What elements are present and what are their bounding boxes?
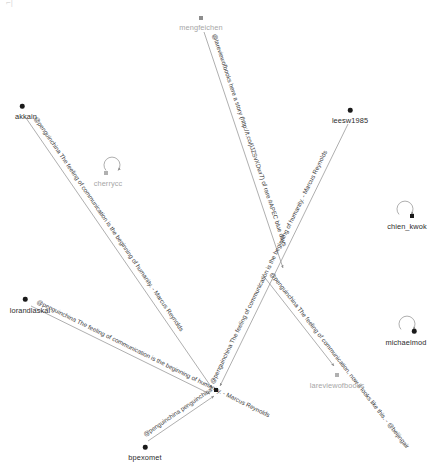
graph-node-michaelmod[interactable] [412,329,417,334]
graph-node-label-mengfeichen: mengfeichen [179,23,222,32]
graph-node-label-michaelmod: michaelmod [386,338,427,347]
graph-node-penguinchina[interactable] [214,388,218,392]
graph-node-lorandlaskai[interactable] [23,297,28,302]
graph-node-cherrycc[interactable] [104,171,108,175]
graph-node-lareviewofbooks[interactable] [335,373,339,377]
graph-node-label-chien_kwok: chien_kwok [387,222,427,231]
network-graph-canvas: ⌐| @penguinchina The feeling of communic… [0,0,446,468]
edge-mengfeichen [204,32,283,268]
graph-node-label-bpexomet: bpexomet [128,453,161,462]
loop-cherrycc [104,157,120,170]
graph-node-label-akkain: akkain [15,112,37,121]
loop-michaelmod [399,316,415,329]
graph-node-label-lareviewofbooks: lareviewofbooks [310,381,365,390]
edge-lareviewofbooks [262,274,334,366]
graph-node-label-leesw1985: leesw1985 [332,116,368,125]
edge-akkain [26,118,212,388]
graph-node-label-cherrycc: cherrycc [94,179,123,188]
graph-node-leesw1985[interactable] [348,108,353,113]
graph-node-akkain[interactable] [20,104,25,109]
loop-chien_kwok [397,201,413,214]
edge-lorandlaskai [31,306,210,394]
edge-bpexomet [148,396,214,441]
graph-node-mengfeichen[interactable] [199,16,203,20]
graph-node-label-lorandlaskai: lorandlaskai [10,306,51,315]
graph-node-chien_kwok[interactable] [410,214,414,218]
graph-node-bpexomet[interactable] [143,445,148,450]
